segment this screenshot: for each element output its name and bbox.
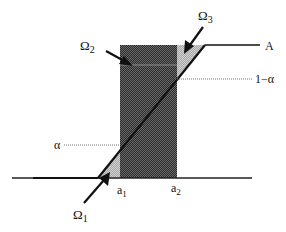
label-a1: a1 xyxy=(117,183,127,199)
label-omega3: Ω3 xyxy=(198,8,213,25)
label-a2: a2 xyxy=(171,181,181,197)
label-alpha: α xyxy=(54,138,61,152)
arrow-omega1-icon xyxy=(84,172,110,203)
label-omega2: Ω2 xyxy=(80,38,95,55)
label-A: A xyxy=(265,39,274,53)
label-one-minus-alpha: 1−α xyxy=(255,72,275,86)
diagram-canvas: Ω2 Ω3 Ω1 A 1−α α a1 a2 xyxy=(0,0,286,232)
label-omega1: Ω1 xyxy=(73,207,88,224)
